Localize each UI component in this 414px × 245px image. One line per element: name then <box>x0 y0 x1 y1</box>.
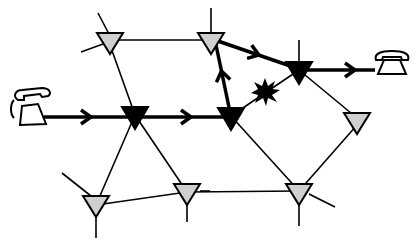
switch-node-idle <box>174 184 200 205</box>
link-C-H <box>135 115 187 192</box>
link-F-I <box>299 125 357 191</box>
switch-node-idle <box>97 33 123 54</box>
stub-A-left <box>81 44 103 52</box>
nodes <box>83 33 370 217</box>
switch-node-idle <box>344 113 370 134</box>
telephone-icon <box>11 88 50 125</box>
explosion-icon <box>251 78 280 106</box>
stub-G-left <box>62 173 91 196</box>
switch-node-idle <box>286 184 312 205</box>
stub-I-right <box>309 194 335 207</box>
switch-node-active <box>286 62 312 84</box>
link-E-F <box>299 70 357 118</box>
switch-node-idle <box>83 196 109 217</box>
network-diagram <box>0 0 414 245</box>
link-A-C <box>110 45 135 115</box>
link-G-H <box>96 192 187 205</box>
telephone-icon <box>376 51 409 74</box>
link-C-G <box>96 115 135 205</box>
link-D-I <box>231 116 299 191</box>
